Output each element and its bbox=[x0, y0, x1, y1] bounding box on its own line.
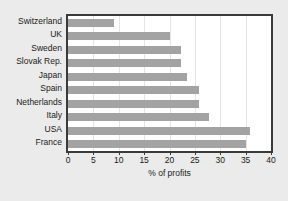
bar bbox=[68, 73, 187, 81]
y-axis-label: UK bbox=[0, 30, 62, 39]
y-axis-label: France bbox=[0, 138, 62, 147]
x-axis-title: % of profits bbox=[66, 168, 273, 178]
y-axis-label: Spain bbox=[0, 84, 62, 93]
bar bbox=[68, 19, 114, 27]
bar bbox=[68, 140, 246, 148]
x-axis-tick-label: 20 bbox=[165, 155, 174, 165]
bar bbox=[68, 127, 250, 135]
bar-row bbox=[68, 19, 271, 27]
y-axis-label: Switzerland bbox=[0, 17, 62, 26]
x-axis-tick-label: 0 bbox=[66, 155, 71, 165]
bar-row bbox=[68, 113, 271, 121]
bar-chart: SwitzerlandUKSwedenSlovak Rep.JapanSpain… bbox=[0, 0, 288, 201]
bar bbox=[68, 32, 170, 40]
y-axis-label: Japan bbox=[0, 71, 62, 80]
bar-row bbox=[68, 86, 271, 94]
x-axis-tick-label: 15 bbox=[139, 155, 148, 165]
y-axis-label: Italy bbox=[0, 111, 62, 120]
bar-row bbox=[68, 73, 271, 81]
x-axis-tick-label: 35 bbox=[241, 155, 250, 165]
bar-row bbox=[68, 140, 271, 148]
y-axis-label: Netherlands bbox=[0, 98, 62, 107]
bar-row bbox=[68, 32, 271, 40]
bar-series bbox=[68, 16, 271, 151]
y-axis-label: Slovak Rep. bbox=[0, 57, 62, 66]
bar bbox=[68, 59, 181, 67]
bar-row bbox=[68, 127, 271, 135]
x-axis-tick-label: 10 bbox=[114, 155, 123, 165]
bar bbox=[68, 113, 209, 121]
x-axis-tick-labels: 0510152025303540 bbox=[66, 155, 273, 167]
x-axis-tick-label: 30 bbox=[216, 155, 225, 165]
bar bbox=[68, 46, 181, 54]
x-axis-tick-label: 40 bbox=[266, 155, 275, 165]
bar bbox=[68, 86, 199, 94]
bar bbox=[68, 100, 199, 108]
bar-row bbox=[68, 100, 271, 108]
y-axis-label: Sweden bbox=[0, 44, 62, 53]
plot-area bbox=[66, 14, 273, 153]
bar-row bbox=[68, 46, 271, 54]
gridline bbox=[271, 16, 272, 151]
bar-row bbox=[68, 59, 271, 67]
x-axis-tick-label: 25 bbox=[190, 155, 199, 165]
y-axis-category-labels: SwitzerlandUKSwedenSlovak Rep.JapanSpain… bbox=[0, 14, 64, 153]
x-axis-tick-label: 5 bbox=[91, 155, 96, 165]
y-axis-label: USA bbox=[0, 125, 62, 134]
